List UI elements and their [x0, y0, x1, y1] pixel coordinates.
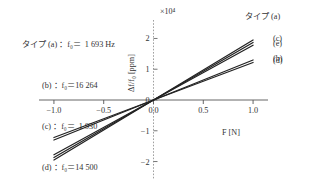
plot-area	[0, 0, 312, 194]
series-label-d: (d)	[273, 56, 283, 65]
y-tick-label: −1	[128, 126, 150, 135]
x-tick-label: −1.0	[46, 106, 61, 115]
figure-root: タイプ (a) ：f₀＝ 1 693 Hz (b) ：f₀＝16 264 (c)…	[0, 0, 312, 194]
x-tick-label: 0.0	[148, 106, 158, 115]
x-tick-label: 0.5	[198, 106, 208, 115]
y-tick-label: 2	[128, 34, 150, 43]
series-label-e: (e)	[273, 39, 282, 48]
y-tick-label: −2	[128, 157, 150, 166]
y-tick-label: 1	[128, 65, 150, 74]
x-tick-label: 1.0	[248, 106, 258, 115]
x-tick-label: −0.5	[96, 106, 111, 115]
origin-zero-label: 0	[128, 96, 150, 105]
